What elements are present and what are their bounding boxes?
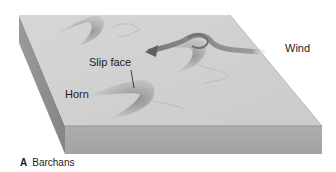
wind-label: Wind [285, 43, 310, 54]
caption-title: Barchans [32, 157, 74, 168]
horn-label: Horn [65, 89, 89, 100]
figure-caption: ABarchans [20, 158, 74, 168]
block-front-face [65, 126, 322, 154]
block-top-surface [19, 15, 322, 126]
caption-letter: A [20, 157, 27, 168]
barchan-block-diagram [0, 0, 336, 172]
slip-face-label: Slip face [89, 57, 131, 68]
